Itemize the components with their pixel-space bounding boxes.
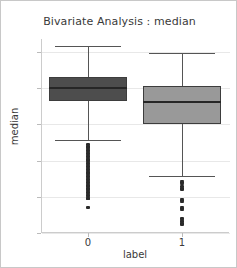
median-line-0	[49, 87, 127, 89]
y-gridline	[42, 197, 230, 198]
y-gridline	[42, 161, 230, 162]
whisker-upper	[88, 46, 89, 77]
y-tick-mark	[37, 124, 41, 125]
y-gridline	[42, 233, 230, 234]
chart-figure: Bivariate Analysis : median median label…	[0, 0, 237, 268]
whisker-upper	[182, 53, 183, 86]
box-1	[143, 86, 221, 124]
outlier-point	[180, 201, 184, 204]
x-axis-label: label	[41, 249, 229, 260]
outlier-point	[86, 206, 90, 209]
whisker-cap-lower	[149, 176, 215, 177]
y-tick-mark	[37, 197, 41, 198]
y-tick-mark	[37, 161, 41, 162]
y-axis-label: median	[9, 97, 20, 157]
x-tick-mark	[182, 233, 183, 237]
plot-area	[41, 39, 229, 233]
median-line-1	[143, 101, 221, 103]
whisker-cap-upper	[55, 46, 121, 47]
chart-title: Bivariate Analysis : median	[1, 15, 237, 28]
y-tick-mark	[37, 233, 41, 234]
outlier-point	[180, 209, 184, 212]
x-tick-mark	[88, 233, 89, 237]
x-tick-label: 1	[152, 237, 212, 248]
outlier-point	[180, 188, 184, 191]
y-gridline	[42, 124, 230, 125]
x-tick-label: 0	[58, 237, 118, 248]
outlier-point	[180, 223, 184, 226]
y-tick-mark	[37, 88, 41, 89]
whisker-cap-lower	[55, 140, 121, 141]
whisker-lower	[88, 101, 89, 140]
whisker-lower	[182, 124, 183, 176]
y-tick-mark	[37, 52, 41, 53]
whisker-cap-upper	[149, 53, 215, 54]
